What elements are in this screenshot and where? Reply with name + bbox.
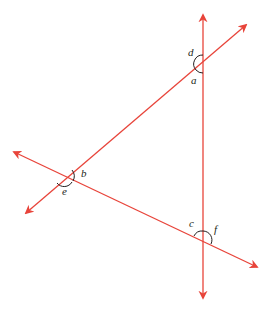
angle-label-f: f: [214, 223, 219, 235]
angle-label-a: a: [191, 74, 197, 86]
angle-label-d: d: [188, 46, 194, 58]
angle-arc-a: [196, 70, 203, 73]
angle-arc-c: [194, 231, 203, 236]
angle-label-e: e: [62, 185, 67, 197]
angle-label-b: b: [81, 167, 87, 179]
angle-diagram: d a b e c f: [0, 0, 272, 313]
angle-label-c: c: [189, 217, 194, 229]
descending-line: [14, 152, 257, 267]
